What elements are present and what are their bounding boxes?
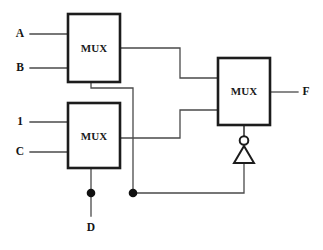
net-mux-top-out (120, 48, 218, 78)
mux-right-label: MUX (231, 85, 257, 97)
mux-bottom[interactable]: MUX (68, 103, 120, 168)
circuit-schematic: MUX MUX MUX A B 1 C D F (0, 0, 323, 250)
input-label-c: C (16, 145, 24, 157)
net-mux-bottom-out (120, 110, 218, 138)
input-label-a: A (16, 27, 25, 39)
input-label-b: B (16, 61, 24, 73)
mux-right[interactable]: MUX (218, 58, 270, 125)
junction-d-left (87, 189, 96, 198)
inverter-gate[interactable] (234, 136, 254, 163)
input-label-d: D (87, 221, 95, 233)
mux-top[interactable]: MUX (68, 14, 120, 82)
output-label-f: F (302, 85, 309, 97)
circuit-diagram-canvas: MUX MUX MUX A B 1 C D F (0, 0, 323, 250)
mux-bottom-label: MUX (81, 130, 107, 142)
mux-top-label: MUX (81, 42, 107, 54)
not-gate-bubble (240, 136, 249, 145)
junction-d-right (129, 189, 138, 198)
not-gate-triangle (234, 146, 254, 163)
net-d-rail (133, 163, 244, 193)
input-label-1: 1 (17, 115, 23, 127)
